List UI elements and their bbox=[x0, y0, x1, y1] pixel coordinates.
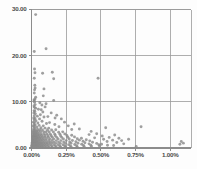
data-point bbox=[62, 138, 65, 141]
data-point bbox=[70, 128, 73, 131]
data-point bbox=[60, 117, 63, 120]
data-point bbox=[101, 135, 104, 138]
data-point bbox=[73, 135, 76, 138]
data-point bbox=[40, 104, 43, 107]
data-point bbox=[106, 140, 109, 143]
x-axis-tick-label: 0.75% bbox=[122, 152, 150, 158]
data-point bbox=[83, 145, 86, 148]
data-point bbox=[54, 117, 57, 120]
data-point bbox=[52, 77, 55, 80]
data-point bbox=[182, 142, 185, 145]
data-point bbox=[93, 136, 96, 139]
data-point bbox=[45, 122, 48, 125]
data-point bbox=[115, 141, 118, 144]
data-point bbox=[88, 139, 91, 142]
data-point bbox=[127, 138, 130, 141]
data-point bbox=[97, 77, 100, 80]
data-point bbox=[41, 72, 44, 75]
data-point bbox=[43, 116, 46, 119]
data-point bbox=[41, 111, 44, 114]
data-point bbox=[67, 124, 70, 127]
data-point bbox=[135, 145, 138, 148]
data-point bbox=[78, 128, 81, 131]
data-point bbox=[33, 88, 36, 91]
data-point bbox=[55, 114, 58, 117]
y-axis-tick-label: 30.00 bbox=[12, 6, 26, 12]
data-point bbox=[48, 121, 51, 124]
data-point bbox=[33, 68, 36, 71]
data-point bbox=[108, 136, 111, 139]
grid-lines bbox=[32, 10, 192, 149]
data-point bbox=[91, 141, 94, 144]
data-point bbox=[33, 92, 36, 95]
data-point bbox=[44, 146, 47, 149]
data-point bbox=[70, 134, 73, 137]
data-point bbox=[33, 50, 36, 53]
data-point bbox=[120, 139, 123, 142]
scatter-chart: 0.00%0.25%0.50%0.75%1.00% 0.0010.0020.00… bbox=[0, 0, 197, 169]
data-points bbox=[30, 13, 184, 148]
data-point bbox=[122, 142, 125, 145]
data-point bbox=[42, 94, 45, 97]
data-point bbox=[45, 47, 48, 50]
data-point bbox=[51, 71, 54, 74]
x-axis-tick-label: 0.25% bbox=[52, 152, 80, 158]
data-point bbox=[36, 115, 39, 118]
data-point bbox=[42, 124, 45, 127]
data-point bbox=[178, 143, 181, 146]
data-point bbox=[33, 77, 36, 80]
data-point bbox=[113, 134, 116, 137]
data-point bbox=[61, 130, 64, 133]
x-axis-tick-label: 0.50% bbox=[87, 152, 115, 158]
y-axis-tick-label: 10.00 bbox=[12, 99, 26, 105]
data-point bbox=[68, 138, 71, 141]
data-point bbox=[100, 143, 103, 146]
data-point bbox=[71, 139, 74, 142]
x-axis-tick-label: 0.00% bbox=[18, 152, 46, 158]
data-point bbox=[63, 121, 66, 124]
data-point bbox=[95, 132, 98, 135]
data-point bbox=[102, 138, 105, 141]
data-point bbox=[76, 145, 79, 148]
data-point bbox=[47, 146, 50, 149]
data-point bbox=[39, 113, 42, 116]
data-point bbox=[52, 99, 55, 102]
data-point bbox=[43, 87, 46, 90]
y-axis-tick-label: 20.00 bbox=[12, 53, 26, 59]
data-point bbox=[55, 146, 58, 149]
data-point bbox=[38, 101, 41, 104]
data-point bbox=[37, 108, 40, 111]
data-point bbox=[38, 117, 41, 120]
data-point bbox=[44, 105, 47, 108]
data-point bbox=[83, 141, 86, 144]
data-point bbox=[90, 130, 93, 133]
data-point bbox=[45, 102, 48, 105]
data-point bbox=[111, 139, 114, 142]
data-point bbox=[70, 146, 73, 149]
data-point bbox=[65, 139, 68, 142]
data-point bbox=[59, 146, 62, 149]
y-axis-tick-label: 0.00 bbox=[15, 145, 26, 151]
data-point bbox=[34, 71, 37, 74]
x-axis-tick-label: 1.00% bbox=[156, 152, 184, 158]
data-point bbox=[44, 127, 47, 130]
data-point bbox=[42, 145, 45, 148]
axis-ticks bbox=[29, 10, 171, 151]
data-point bbox=[106, 144, 109, 147]
data-point bbox=[50, 111, 53, 114]
data-point bbox=[88, 133, 91, 136]
data-point bbox=[58, 125, 61, 128]
data-point bbox=[41, 120, 44, 123]
data-point bbox=[104, 126, 107, 129]
data-point bbox=[85, 138, 88, 141]
data-point bbox=[78, 139, 81, 142]
data-point bbox=[90, 145, 93, 148]
data-point bbox=[34, 13, 37, 16]
data-point bbox=[140, 125, 143, 128]
data-point bbox=[112, 144, 115, 147]
data-point bbox=[77, 142, 80, 145]
data-point bbox=[117, 137, 120, 140]
data-point bbox=[54, 128, 57, 131]
data-point bbox=[38, 124, 41, 127]
data-point bbox=[46, 115, 49, 118]
